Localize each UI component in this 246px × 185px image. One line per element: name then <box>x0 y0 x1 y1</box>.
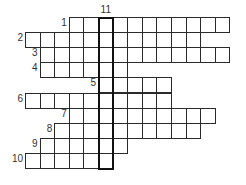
grid-cell[interactable] <box>156 108 172 124</box>
clue-number: 10 <box>9 154 23 164</box>
grid-cell[interactable] <box>83 108 99 124</box>
grid-cell[interactable] <box>54 123 70 139</box>
grid-cell[interactable] <box>156 32 172 48</box>
grid-cell[interactable] <box>69 108 85 124</box>
grid-cell[interactable] <box>54 62 70 78</box>
grid-cell[interactable] <box>186 123 202 139</box>
grid-cell[interactable] <box>25 153 41 169</box>
grid-cell[interactable] <box>127 108 143 124</box>
grid-cell[interactable] <box>83 47 99 63</box>
clue-number: 1 <box>53 18 67 28</box>
grid-cell[interactable] <box>69 138 85 154</box>
grid-cell[interactable] <box>113 62 129 78</box>
grid-cell[interactable] <box>83 32 99 48</box>
clue-number-vertical: 11 <box>98 5 114 15</box>
clue-number: 3 <box>24 48 38 58</box>
grid-cell[interactable] <box>98 17 114 33</box>
grid-cell[interactable] <box>54 138 70 154</box>
grid-cell[interactable] <box>156 93 172 109</box>
clue-number: 4 <box>24 63 38 73</box>
grid-cell[interactable] <box>54 47 70 63</box>
grid-cell[interactable] <box>142 77 158 93</box>
grid-cell[interactable] <box>40 47 56 63</box>
grid-cell[interactable] <box>200 47 216 63</box>
crossword-grid: 1234567891011 <box>0 0 246 185</box>
grid-cell[interactable] <box>113 17 129 33</box>
grid-cell[interactable] <box>156 17 172 33</box>
grid-cell[interactable] <box>142 17 158 33</box>
grid-cell[interactable] <box>54 32 70 48</box>
grid-cell[interactable] <box>127 123 143 139</box>
grid-cell[interactable] <box>83 62 99 78</box>
grid-cell[interactable] <box>171 32 187 48</box>
grid-cell[interactable] <box>98 47 114 63</box>
grid-cell[interactable] <box>69 123 85 139</box>
grid-cell[interactable] <box>54 153 70 169</box>
grid-cell[interactable] <box>40 32 56 48</box>
grid-cell[interactable] <box>83 123 99 139</box>
grid-cell[interactable] <box>200 17 216 33</box>
grid-cell[interactable] <box>186 32 202 48</box>
grid-cell[interactable] <box>142 47 158 63</box>
grid-cell[interactable] <box>127 93 143 109</box>
clue-number: 5 <box>82 78 96 88</box>
grid-cell[interactable] <box>113 123 129 139</box>
grid-cell[interactable] <box>200 108 216 124</box>
grid-cell[interactable] <box>142 93 158 109</box>
grid-cell[interactable] <box>98 123 114 139</box>
grid-cell[interactable] <box>127 17 143 33</box>
grid-cell[interactable] <box>54 93 70 109</box>
grid-cell[interactable] <box>171 123 187 139</box>
grid-cell[interactable] <box>69 93 85 109</box>
grid-cell[interactable] <box>113 77 129 93</box>
grid-cell[interactable] <box>113 138 129 154</box>
clue-number: 6 <box>9 94 23 104</box>
grid-cell[interactable] <box>98 108 114 124</box>
grid-cell[interactable] <box>156 47 172 63</box>
grid-cell[interactable] <box>113 93 129 109</box>
grid-cell[interactable] <box>98 138 114 154</box>
grid-cell[interactable] <box>156 77 172 93</box>
clue-number: 9 <box>24 139 38 149</box>
grid-cell[interactable] <box>40 62 56 78</box>
grid-cell[interactable] <box>215 17 231 33</box>
grid-cell[interactable] <box>127 77 143 93</box>
grid-cell[interactable] <box>98 32 114 48</box>
clue-number: 8 <box>38 124 52 134</box>
grid-cell[interactable] <box>113 32 129 48</box>
grid-cell[interactable] <box>156 123 172 139</box>
grid-cell[interactable] <box>215 47 231 63</box>
grid-cell[interactable] <box>69 32 85 48</box>
grid-cell[interactable] <box>40 93 56 109</box>
grid-cell[interactable] <box>98 93 114 109</box>
grid-cell[interactable] <box>69 62 85 78</box>
grid-cell[interactable] <box>25 32 41 48</box>
grid-cell[interactable] <box>98 153 114 169</box>
grid-cell[interactable] <box>171 47 187 63</box>
grid-cell[interactable] <box>83 138 99 154</box>
clue-number: 7 <box>53 109 67 119</box>
grid-cell[interactable] <box>83 93 99 109</box>
grid-cell[interactable] <box>83 153 99 169</box>
grid-cell[interactable] <box>98 77 114 93</box>
grid-cell[interactable] <box>69 153 85 169</box>
grid-cell[interactable] <box>186 47 202 63</box>
grid-cell[interactable] <box>171 17 187 33</box>
grid-cell[interactable] <box>113 108 129 124</box>
grid-cell[interactable] <box>142 123 158 139</box>
grid-cell[interactable] <box>127 47 143 63</box>
grid-cell[interactable] <box>69 17 85 33</box>
grid-cell[interactable] <box>142 108 158 124</box>
grid-cell[interactable] <box>186 17 202 33</box>
grid-cell[interactable] <box>83 17 99 33</box>
grid-cell[interactable] <box>69 47 85 63</box>
grid-cell[interactable] <box>113 47 129 63</box>
grid-cell[interactable] <box>25 93 41 109</box>
grid-cell[interactable] <box>186 108 202 124</box>
grid-cell[interactable] <box>142 32 158 48</box>
grid-cell[interactable] <box>40 153 56 169</box>
grid-cell[interactable] <box>98 62 114 78</box>
grid-cell[interactable] <box>171 108 187 124</box>
grid-cell[interactable] <box>127 32 143 48</box>
grid-cell[interactable] <box>40 138 56 154</box>
